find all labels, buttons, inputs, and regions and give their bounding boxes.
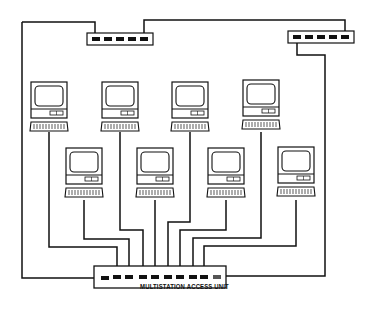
workstation-2 [101,82,139,131]
workstation-5 [65,148,103,197]
cable-ws7 [180,200,226,271]
network-diagram [0,0,369,315]
mau-label: MULTISTATION ACCESS UNIT [28,283,342,290]
hub-right [288,31,354,43]
hub-left [87,33,153,45]
cable-ws5 [84,200,129,271]
workstation-1 [30,82,68,131]
workstation-4 [242,80,280,129]
cable-ws8 [204,200,296,271]
workstation-8 [277,147,315,196]
workstation-3 [171,82,209,131]
workstation-6 [136,148,174,197]
ring-cable-left [22,22,95,38]
workstation-7 [207,148,245,197]
